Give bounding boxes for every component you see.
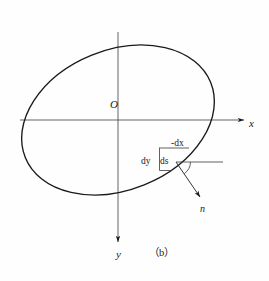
ellipse-normal-diagram	[0, 0, 269, 281]
origin-label: O	[110, 99, 118, 110]
figure-container: x y O -dx dy ds n （b）	[0, 0, 269, 281]
y-axis-label: y	[116, 249, 121, 260]
dy-label: dy	[141, 157, 151, 167]
figure-caption: （b）	[149, 248, 174, 259]
normal-vector	[176, 162, 200, 197]
angle-arc	[184, 162, 190, 174]
ds-label: ds	[160, 157, 168, 167]
normal-vector-label: n	[200, 204, 205, 214]
x-axis-label: x	[249, 118, 254, 129]
dx-label: -dx	[171, 139, 184, 149]
